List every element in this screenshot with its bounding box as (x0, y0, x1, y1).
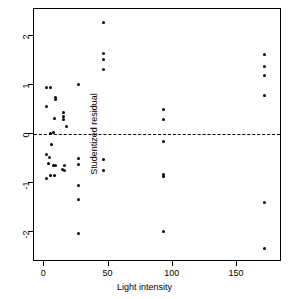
data-point (63, 164, 66, 167)
data-point (102, 158, 105, 161)
data-point (63, 169, 66, 172)
data-point (49, 86, 52, 89)
data-point (77, 232, 80, 235)
y-axis-tick-label: -1 (22, 181, 31, 207)
data-point (263, 65, 266, 68)
data-point (45, 105, 48, 108)
x-axis-label: Light intensity (0, 282, 289, 292)
data-point (53, 117, 56, 120)
data-points-layer (34, 9, 280, 260)
data-point (263, 201, 266, 204)
data-point (48, 156, 51, 159)
data-point (102, 169, 105, 172)
data-point (47, 162, 50, 165)
y-axis-tick-label: 1 (22, 83, 31, 109)
y-axis-tick-label: 2 (22, 34, 31, 60)
data-point (45, 177, 48, 180)
data-point (62, 118, 65, 121)
data-point (162, 175, 165, 178)
data-point (77, 184, 80, 187)
data-point (263, 247, 266, 250)
data-point (102, 52, 105, 55)
data-point (77, 198, 80, 201)
data-point (62, 111, 65, 114)
data-point (49, 174, 52, 177)
data-point (49, 132, 52, 135)
scatter-plot-figure: Studentized residual -2-1012 050100150 L… (0, 0, 289, 299)
data-point (102, 68, 105, 71)
data-point (162, 230, 165, 233)
data-point (77, 83, 80, 86)
data-point (102, 58, 105, 61)
data-point (77, 157, 80, 160)
data-point (162, 118, 165, 121)
data-point (102, 21, 105, 24)
data-point (77, 163, 80, 166)
x-axis-tick-label: 0 (23, 268, 63, 279)
x-axis-tick (236, 261, 237, 266)
data-point (54, 98, 57, 101)
data-point (263, 74, 266, 77)
x-axis-tick-label: 50 (88, 268, 128, 279)
data-point (162, 108, 165, 111)
data-point (263, 53, 266, 56)
data-point (162, 140, 165, 143)
data-point (263, 94, 266, 97)
plot-frame (33, 8, 281, 261)
y-axis-tick-label: 0 (22, 132, 31, 158)
x-axis-tick (43, 261, 44, 266)
data-point (53, 174, 56, 177)
y-axis-tick-label: -2 (22, 230, 31, 256)
data-point (45, 86, 48, 89)
x-axis-tick-label: 100 (152, 268, 192, 279)
data-point (54, 164, 57, 167)
x-axis-tick (108, 261, 109, 266)
x-axis-tick-label: 150 (216, 268, 256, 279)
data-point (65, 125, 68, 128)
data-point (50, 143, 53, 146)
x-axis-tick (172, 261, 173, 266)
data-point (52, 131, 55, 134)
